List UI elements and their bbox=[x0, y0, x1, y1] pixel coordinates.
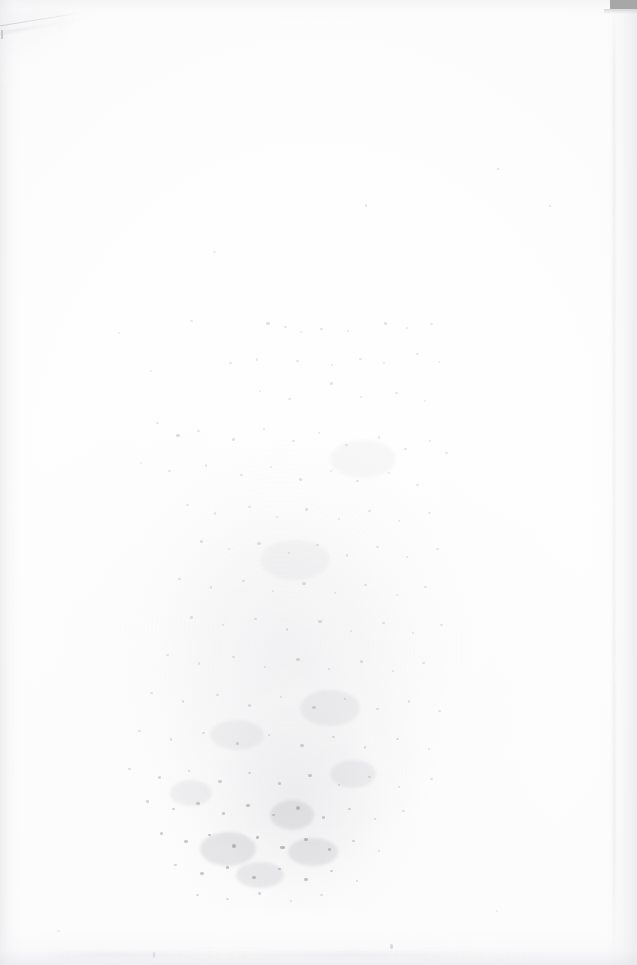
paper-fold-crease bbox=[0, 6, 96, 40]
left-edge-shadow bbox=[0, 0, 26, 965]
right-page-edge-line bbox=[613, 8, 615, 958]
scanner-bed-edge-artifact bbox=[610, 0, 637, 9]
scanner-bed-artifact-fade bbox=[604, 9, 637, 14]
bottom-edge-streak bbox=[40, 952, 580, 957]
paper-background bbox=[0, 0, 637, 965]
scanned-page bbox=[0, 0, 637, 965]
bottom-edge-shadow bbox=[0, 931, 637, 965]
crease-endpoint-tick bbox=[1, 30, 3, 39]
